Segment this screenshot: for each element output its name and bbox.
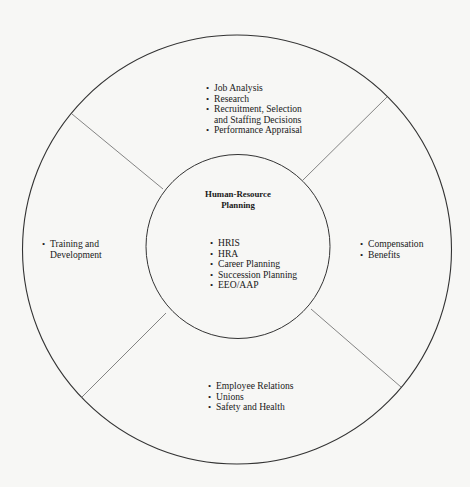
divider-lower-right [311,309,401,387]
list-item: Benefits [360,250,423,261]
segment-top-list: Job Analysis Research Recruitment, Selec… [206,83,302,115]
segment-left: Training and Development [42,239,102,260]
center-title-line1: Human-Resource [188,189,288,200]
center-list: HRIS HRA Career Planning Succession Plan… [210,238,297,291]
segment-right: Compensation Benefits [360,239,423,260]
segment-right-list: Compensation Benefits [360,239,423,260]
center-title: Human-Resource Planning [188,189,288,210]
list-item: Job Analysis [206,83,302,94]
list-item: Safety and Health [208,402,294,413]
list-item: Recruitment, Selection [206,104,302,115]
center-items: HRIS HRA Career Planning Succession Plan… [210,238,297,291]
segment-top: Job Analysis Research Recruitment, Selec… [206,83,302,136]
list-item: EEO/AAP [210,280,297,291]
segment-bottom: Employee Relations Unions Safety and Hea… [208,381,294,413]
list-item: HRIS [210,238,297,249]
segment-bottom-list: Employee Relations Unions Safety and Hea… [208,381,294,413]
list-item: Performance Appraisal [206,125,302,136]
divider-upper-left [72,114,163,189]
center-title-line2: Planning [188,200,288,211]
divider-upper-right [303,97,387,180]
divider-lower-left [81,313,166,398]
list-item: Training and [42,239,102,250]
segment-top-list-cont: Performance Appraisal [206,125,302,136]
list-item: Employee Relations [208,381,294,392]
segment-left-list: Training and [42,239,102,250]
list-item: Compensation [360,239,423,250]
list-item-continuation: Development [42,250,102,261]
